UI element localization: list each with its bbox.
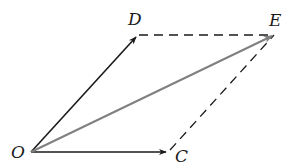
dashed-edge-c-e xyxy=(170,35,274,150)
label-e: E xyxy=(268,10,282,30)
label-c: C xyxy=(175,146,188,166)
label-o: O xyxy=(11,142,25,162)
vector-o-e-resultant xyxy=(31,36,272,152)
label-d: D xyxy=(127,9,142,29)
parallelogram-diagram: O D E C xyxy=(0,0,297,167)
vector-o-d xyxy=(31,37,136,152)
